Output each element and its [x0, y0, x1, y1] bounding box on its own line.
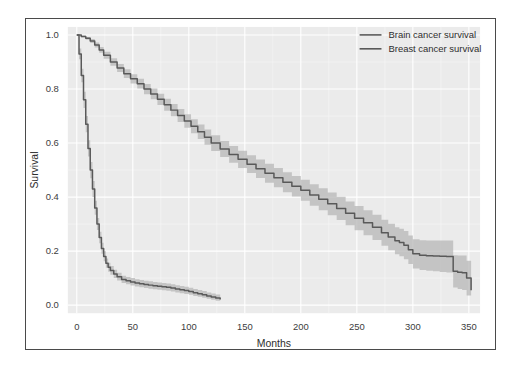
legend-label-1: Breast cancer survival — [388, 43, 481, 54]
x-tick-label: 150 — [237, 321, 253, 332]
figure-frame: 050100150200250300350 0.00.20.40.60.81.0… — [25, 18, 496, 350]
y-tick-label: 0.2 — [46, 245, 59, 256]
y-tick-label: 0.6 — [46, 137, 59, 148]
chart-screenshot: 050100150200250300350 0.00.20.40.60.81.0… — [0, 0, 518, 372]
x-tick-label: 200 — [293, 321, 309, 332]
x-tick-label: 0 — [74, 321, 79, 332]
survival-curve-chart: 050100150200250300350 0.00.20.40.60.81.0… — [26, 19, 495, 349]
x-tick-label: 300 — [405, 321, 421, 332]
x-tick-label: 250 — [349, 321, 365, 332]
y-axis-tick-labels: 0.00.20.40.60.81.0 — [46, 29, 59, 310]
y-tick-label: 1.0 — [46, 29, 59, 40]
x-tick-label: 50 — [128, 321, 139, 332]
legend-label-0: Brain cancer survival — [388, 29, 476, 40]
x-axis-tick-labels: 050100150200250300350 — [74, 321, 477, 332]
x-axis-title: Months — [257, 338, 291, 349]
y-tick-label: 0.0 — [46, 300, 59, 311]
x-tick-label: 100 — [181, 321, 197, 332]
y-axis-title: Survival — [29, 152, 40, 189]
y-tick-label: 0.4 — [46, 191, 59, 202]
x-tick-label: 350 — [461, 321, 477, 332]
plot-area: 050100150200250300350 0.00.20.40.60.81.0… — [26, 19, 495, 349]
y-tick-label: 0.8 — [46, 83, 59, 94]
